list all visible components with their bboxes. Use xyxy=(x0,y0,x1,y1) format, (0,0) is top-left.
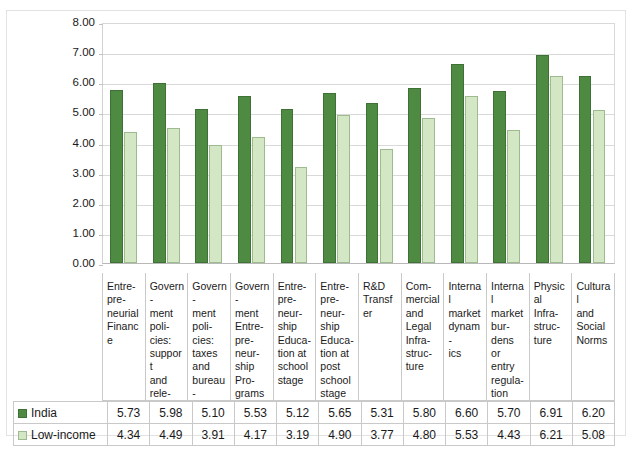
category-label-line: school xyxy=(320,374,355,387)
bar-low[interactable] xyxy=(380,149,393,263)
bar-low[interactable] xyxy=(209,145,222,263)
category-label-line: pre- xyxy=(278,293,313,306)
category-label-line: market xyxy=(448,307,483,320)
table-row: India5.735.985.105.535.125.655.315.806.6… xyxy=(14,402,615,424)
legend-swatch-icon xyxy=(18,409,27,418)
category-label-line: Educa- xyxy=(278,334,313,347)
category-label-line: and xyxy=(150,374,185,387)
category-label-line: neur- xyxy=(320,307,355,320)
category-label-line: Infra- xyxy=(406,334,441,347)
category-label-line: school xyxy=(278,360,313,373)
table-row: Low-income4.344.493.914.173.194.903.774.… xyxy=(14,424,615,446)
series-name: India xyxy=(31,406,57,420)
table-cell-value: 6.20 xyxy=(572,402,614,424)
category-label-line: pre- xyxy=(320,293,355,306)
category-label-line: poli- xyxy=(150,320,185,333)
category-label-line: post xyxy=(320,360,355,373)
category-label: Govern-mentpoli-cies:taxesandbureau-crac… xyxy=(188,273,231,400)
table-cell-value: 5.31 xyxy=(361,402,403,424)
bar-group xyxy=(571,24,614,263)
bar-low[interactable] xyxy=(252,137,265,263)
bar-series-container xyxy=(103,24,614,263)
bar-group xyxy=(188,24,231,263)
category-label-line: dynam- xyxy=(448,320,483,347)
bar-india[interactable] xyxy=(451,64,464,263)
series-legend-cell: Low-income xyxy=(14,424,108,446)
category-label-line: tion at xyxy=(320,347,355,360)
category-label: R&DTransfer xyxy=(359,273,402,400)
bar-india[interactable] xyxy=(153,83,166,263)
category-label-line: Infra- xyxy=(534,307,569,320)
series-legend-cell: India xyxy=(14,402,108,424)
category-label-line: Social xyxy=(576,320,611,333)
legend-swatch-icon xyxy=(18,431,27,440)
bar-india[interactable] xyxy=(579,76,592,263)
bar-india[interactable] xyxy=(408,88,421,263)
bar-low[interactable] xyxy=(167,128,180,263)
table-cell-value: 3.19 xyxy=(277,424,319,446)
chart-page: 8.007.006.005.004.003.002.001.000.00 Ent… xyxy=(0,0,633,452)
y-axis-tick xyxy=(99,265,103,266)
category-label-line: Com- xyxy=(406,280,441,293)
category-label-line: Physical xyxy=(534,280,569,307)
bar-india[interactable] xyxy=(493,91,506,263)
category-label-line: Norms xyxy=(576,334,611,347)
category-label-line: struc- xyxy=(406,347,441,360)
category-label-line: rele- xyxy=(150,387,185,400)
category-label-line: Cultural xyxy=(576,280,611,307)
bar-low[interactable] xyxy=(337,115,350,263)
bar-india[interactable] xyxy=(323,93,336,263)
table-cell-value: 4.49 xyxy=(150,424,192,446)
category-label: Govern-mentEntre-pre-neur-shipPro-grams xyxy=(231,273,274,400)
bar-india[interactable] xyxy=(110,90,123,263)
bar-low[interactable] xyxy=(465,96,478,263)
category-label-line: Govern- xyxy=(150,280,185,307)
table-cell-value: 5.70 xyxy=(488,402,530,424)
category-label-line: ship xyxy=(320,320,355,333)
bar-india[interactable] xyxy=(195,109,208,263)
table-cell-value: 5.98 xyxy=(150,402,192,424)
bar-low[interactable] xyxy=(550,76,563,263)
table-cell-value: 5.65 xyxy=(319,402,361,424)
table-cell-value: 4.43 xyxy=(488,424,530,446)
category-label-line: Pro- xyxy=(235,374,270,387)
y-axis-tick-label: 3.00 xyxy=(73,168,95,180)
bar-low[interactable] xyxy=(422,118,435,263)
table-cell-value: 4.34 xyxy=(108,424,150,446)
bar-group xyxy=(316,24,359,263)
bar-india[interactable] xyxy=(281,109,294,263)
category-label: Internalmarketdynam-ics xyxy=(444,273,487,400)
category-label-line: ture xyxy=(534,334,569,347)
y-axis-tick-label: 1.00 xyxy=(73,228,95,240)
category-label-line: Entre- xyxy=(320,280,355,293)
y-axis-tick-label: 8.00 xyxy=(73,17,95,29)
table-cell-value: 5.73 xyxy=(108,402,150,424)
table-cell-value: 4.17 xyxy=(234,424,276,446)
table-cell-value: 4.90 xyxy=(319,424,361,446)
category-label-line: dens or xyxy=(491,334,526,361)
bar-india[interactable] xyxy=(366,103,379,263)
category-label-line: poli- xyxy=(192,320,227,333)
category-label-line: and xyxy=(192,360,227,373)
bar-low[interactable] xyxy=(295,167,308,263)
y-axis-tick-label: 0.00 xyxy=(73,258,95,270)
bar-low[interactable] xyxy=(507,130,520,263)
category-label-line: Entre- xyxy=(107,280,142,293)
y-axis-tick-label: 4.00 xyxy=(73,138,95,150)
bar-india[interactable] xyxy=(238,96,251,263)
category-label-line: tion at xyxy=(278,347,313,360)
bar-india[interactable] xyxy=(536,55,549,263)
category-label-line: and xyxy=(406,307,441,320)
category-label: Entre-pre-neur-shipEduca-tion atschoolst… xyxy=(274,273,317,400)
category-label-line: cies: xyxy=(150,334,185,347)
y-axis: 8.007.006.005.004.003.002.001.000.00 xyxy=(47,21,99,265)
category-label: Govern-mentpoli-cies:supportandrele-vanc… xyxy=(146,273,189,400)
y-axis-tick-label: 6.00 xyxy=(73,78,95,90)
category-label-line: ture xyxy=(406,360,441,373)
bar-low[interactable] xyxy=(593,110,606,263)
plot-area xyxy=(102,23,615,264)
table-cell-value: 4.80 xyxy=(403,424,445,446)
bar-low[interactable] xyxy=(124,132,137,263)
category-label-line: ics xyxy=(448,347,483,360)
category-label-line: stage xyxy=(320,387,355,400)
